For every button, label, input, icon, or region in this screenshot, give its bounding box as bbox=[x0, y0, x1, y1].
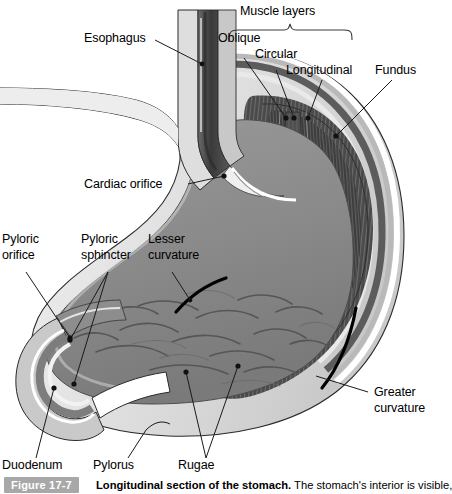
upper-body-curve bbox=[0, 88, 178, 146]
label-greater-curvature-line2: curvature bbox=[374, 401, 425, 415]
label-greater-curvature-line1: Greater bbox=[374, 385, 416, 399]
label-lesser-curvature-line1: Lesser bbox=[148, 232, 185, 246]
label-longitudinal: Longitudinal bbox=[286, 63, 352, 77]
label-rugae: Rugae bbox=[178, 458, 214, 472]
label-lesser-curvature-line2: curvature bbox=[148, 248, 199, 262]
label-oblique: Oblique bbox=[218, 31, 260, 45]
label-pyloric-sphincter-line1: Pyloric bbox=[81, 232, 118, 246]
label-pylorus: Pylorus bbox=[93, 458, 134, 472]
figure-caption: Figure 17-7 Longitudinal section of the … bbox=[0, 476, 423, 494]
label-muscle-layers: Muscle layers bbox=[240, 4, 315, 18]
label-circular: Circular bbox=[255, 47, 297, 61]
label-pyloric-orifice-line2: orifice bbox=[2, 248, 35, 262]
figure-caption-rest: The stomach's interior is visible, bbox=[291, 479, 452, 491]
label-esophagus: Esophagus bbox=[84, 31, 146, 45]
figure-number-badge: Figure 17-7 bbox=[4, 477, 79, 493]
figure-caption-title: Longitudinal section of the stomach. bbox=[96, 479, 291, 491]
label-duodenum: Duodenum bbox=[2, 458, 62, 472]
label-pyloric-orifice-line1: Pyloric bbox=[2, 232, 39, 246]
label-cardiac-orifice: Cardiac orifice bbox=[84, 177, 162, 191]
figure-caption-text: Longitudinal section of the stomach. The… bbox=[96, 479, 452, 491]
label-fundus: Fundus bbox=[375, 63, 416, 77]
label-pyloric-sphincter-line2: sphincter bbox=[81, 248, 131, 262]
